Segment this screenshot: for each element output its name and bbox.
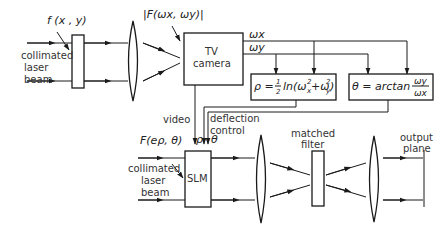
lens-2 [257,135,266,223]
svg-text:): ) [329,80,334,93]
plane-label: plane [403,143,431,154]
input-function-label: f (x , y) [47,14,86,27]
slm-input-label: F(eρ, θ) [140,134,182,147]
svg-text:θ = arctan: θ = arctan [352,80,410,93]
collimated-label-1: collimated [21,50,73,61]
svg-text:ωx: ωx [414,88,428,98]
filter-label: filter [301,139,325,150]
beam-label-2: beam [141,187,169,198]
lens-1 [129,21,138,101]
wy-label: ωy [249,41,265,54]
slm-label: SLM [187,173,208,184]
output-label: output [400,132,433,143]
matched-label: matched [291,128,335,139]
matched-filter [312,151,324,206]
deflection-label: deflection [210,113,260,124]
tv-label: TV [204,46,218,57]
theta-label: θ [211,133,218,146]
fourier-magnitude-label: |F(ωx, ωy)| [143,8,204,21]
rho-label: ρ [196,133,203,146]
wx-label: ωx [249,28,265,41]
video-label: video [163,114,190,125]
svg-text:ωy: ωy [414,76,428,86]
lens-3 [370,136,379,222]
laser-label-2: laser [141,175,166,186]
camera-label: camera [193,58,231,69]
optical-correlator-diagram: f (x , y) collimated laser beam |F(ωx, ω… [0,0,446,236]
laser-label-1: laser [24,62,49,73]
collimated-label-2: collimated [128,163,180,174]
beam-label-1: beam [24,74,52,85]
svg-text:1: 1 [276,78,280,86]
svg-text:ln(ω: ln(ω [283,80,307,93]
input-transparency [72,35,84,88]
svg-text:2: 2 [276,88,281,96]
pointer-arrow [57,32,69,50]
svg-text:ρ =: ρ = [254,80,274,93]
